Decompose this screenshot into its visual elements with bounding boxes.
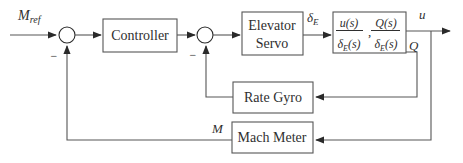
aircraft-frac1-denominator: δE(s) [337, 37, 360, 53]
minus-sign-2: − [190, 48, 197, 62]
control-block-diagram: Mref − Controller − Elevator Servo δE u(… [0, 0, 463, 163]
m-feedback-label: M [211, 121, 224, 136]
elevator-servo-label-line2: Servo [256, 36, 289, 51]
aircraft-frac2-denominator: δE(s) [374, 37, 397, 53]
aircraft-frac1-numerator: u(s) [340, 16, 359, 30]
delta-e-label: δE [307, 10, 319, 27]
mref-label: Mref [17, 8, 42, 25]
controller-label: Controller [111, 28, 169, 43]
summing-junction-2 [197, 27, 213, 43]
summing-junction-1 [59, 27, 75, 43]
u-output-label: u [419, 7, 426, 22]
aircraft-frac2-numerator: Q(s) [375, 16, 396, 30]
block-diagram-figure: Mref − Controller − Elevator Servo δE u(… [0, 0, 463, 163]
mach-meter-label: Mach Meter [238, 130, 307, 145]
minus-sign-1: − [51, 49, 58, 63]
rate-gyro-label: Rate Gyro [244, 90, 302, 105]
rate-gyro-feedback-wire [206, 46, 233, 97]
aircraft-frac-separator: , [368, 24, 371, 39]
elevator-servo-label-line1: Elevator [248, 18, 296, 33]
q-to-rate-gyro-wire [316, 52, 417, 97]
q-output-label: Q [409, 38, 419, 53]
mach-meter-feedback-wire [67, 46, 232, 140]
